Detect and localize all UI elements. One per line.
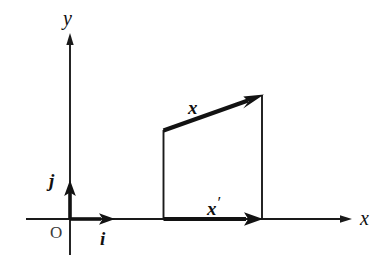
vector-x <box>164 95 265 131</box>
unit-vector-j <box>64 180 76 219</box>
unit-vector-i <box>70 213 115 225</box>
vector-diagram-figure: y x O i j x x′ <box>0 0 383 267</box>
vector-x-prime-label-text: x <box>207 198 217 219</box>
axes-group <box>26 33 352 255</box>
unit-vector-j-label: j <box>49 171 54 190</box>
vector-x-prime-label: x′ <box>207 194 221 218</box>
prime-mark-icon: ′ <box>218 193 222 212</box>
y-axis-label: y <box>63 8 72 28</box>
vector-x-label-text: x <box>188 97 198 118</box>
vector-x-shaft <box>164 101 249 131</box>
vector-x-label: x <box>188 98 198 117</box>
origin-label: O <box>50 224 62 241</box>
unit-vector-i-label: i <box>100 229 105 248</box>
axis-arrow-up-icon <box>66 33 73 45</box>
axis-arrow-right-icon <box>340 215 352 223</box>
x-axis-label: x <box>360 208 369 228</box>
